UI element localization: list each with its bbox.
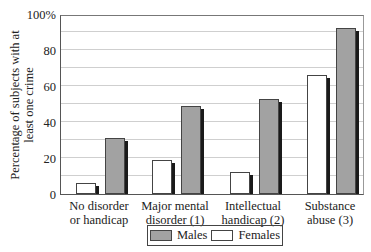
y-tick-label: 40 [44,116,57,131]
bar-chart: Percentage of subjects with at least one… [0,0,371,252]
y-axis-title-line-1: Percentage of subjects with at [8,30,22,179]
gridline [61,49,363,50]
bar-shadow [172,163,175,194]
legend: Males Females [147,225,283,246]
x-category-label: Substanceabuse (3) [285,199,371,227]
bar-shadow [125,141,128,194]
gridline [61,67,363,68]
bar-female [152,160,172,194]
y-axis-title: Percentage of subjects with at least one… [8,30,36,179]
bar-shadow [356,31,359,194]
y-axis-title-line-2: least one crime [22,30,36,179]
plot-area [60,15,364,195]
bar-male [105,138,125,194]
gridline [61,31,363,32]
legend-item-females: Females [211,228,280,243]
legend-item-males: Males [150,228,208,243]
bar-female [230,172,250,194]
bar-female [307,75,327,194]
legend-swatch-females [211,230,233,241]
x-category-label: Major mentaldisorder (1) [130,199,220,227]
y-tick-label: 60 [44,80,57,95]
y-tick-label: 80 [44,44,57,59]
bar-shadow [201,109,204,194]
bar-shadow [279,102,282,194]
bar-shadow [96,186,99,194]
bar-female [76,183,96,194]
legend-label-females: Females [238,228,280,243]
y-tick-label: 20 [44,152,57,167]
bar-shadow [250,175,253,194]
bar-male [259,99,279,194]
bar-male [181,106,201,194]
legend-swatch-males [150,230,172,241]
y-axis-title-area: Percentage of subjects with at least one… [0,0,44,200]
y-tick-label: 100% [27,8,56,23]
legend-label-males: Males [177,228,208,243]
bar-male [336,28,356,194]
bar-shadow [327,78,330,194]
